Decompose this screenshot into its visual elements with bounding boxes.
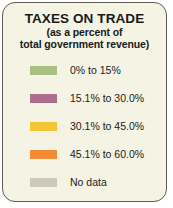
legend-color-swatch <box>30 94 57 103</box>
legend-color-swatch <box>30 178 57 187</box>
legend-subtitle-line-1: (as a percent of <box>3 26 166 38</box>
legend-entry: No data <box>3 168 166 196</box>
legend-entries-list: 0% to 15% 15.1% to 30.0% 30.1% to 45.0% … <box>3 56 166 196</box>
legend-title: TAXES ON TRADE <box>3 11 166 26</box>
legend-title-block: TAXES ON TRADE (as a percent of total go… <box>3 3 166 50</box>
legend-entry-label: No data <box>70 176 107 188</box>
legend-entry: 30.1% to 45.0% <box>3 112 166 140</box>
legend-entry-label: 15.1% to 30.0% <box>70 92 144 104</box>
legend-entry: 15.1% to 30.0% <box>3 84 166 112</box>
legend-subtitle-line-2: total government revenue) <box>3 38 166 50</box>
legend-entry: 45.1% to 60.0% <box>3 140 166 168</box>
map-legend-panel: TAXES ON TRADE (as a percent of total go… <box>2 2 167 202</box>
legend-entry-label: 0% to 15% <box>70 64 121 76</box>
legend-entry-label: 45.1% to 60.0% <box>70 148 144 160</box>
legend-color-swatch <box>30 66 57 75</box>
legend-entry: 0% to 15% <box>3 56 166 84</box>
legend-color-swatch <box>30 150 57 159</box>
legend-entry-label: 30.1% to 45.0% <box>70 120 144 132</box>
legend-color-swatch <box>30 122 57 131</box>
